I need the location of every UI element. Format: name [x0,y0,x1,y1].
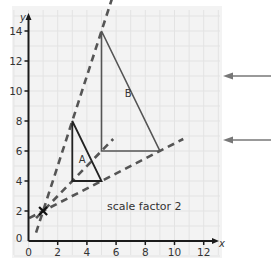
triangle-label-a: A [79,154,86,165]
y-tick-label: 2 [16,205,23,217]
x-tick-label: 12 [197,246,210,258]
y-tick-label: 4 [16,175,23,187]
y-tick-label: 0 [16,232,23,244]
enlargement-diagram: AB yx 02468101214024681012 scale factor … [0,0,271,268]
y-tick-label: 10 [9,85,22,97]
y-tick-label: 6 [16,145,23,157]
x-tick-label: 0 [25,246,32,258]
left-arrow-icon [223,137,233,144]
y-axis-label: y [19,12,27,23]
annotation-arrows [223,73,271,144]
y-tick-label: 14 [9,25,23,37]
x-tick-label: 2 [54,246,61,258]
x-axis-label: x [218,238,225,249]
x-tick-label: 4 [84,246,91,258]
y-tick-label: 8 [16,115,23,127]
x-tick-label: 8 [142,246,149,258]
triangle-label-b: B [125,88,132,99]
x-tick-label: 6 [113,246,120,258]
left-arrow-icon [223,73,233,80]
y-tick-label: 12 [9,55,22,67]
x-tick-label: 10 [168,246,181,258]
scale-factor-caption: scale factor 2 [107,200,182,213]
